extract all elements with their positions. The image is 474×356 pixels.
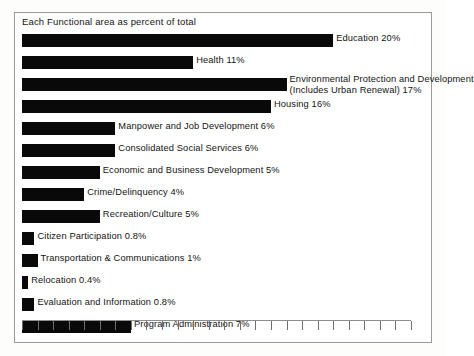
bar-label-transportation-and-communications: Transportation & Communications 1% [41, 253, 201, 264]
bar-row: Crime/Delinquency 4% [22, 187, 412, 209]
bar-label-line1: Evaluation and Information 0.8% [37, 297, 175, 308]
bar-label-line1: Economic and Business Development 5% [103, 165, 280, 176]
bar-housing [22, 100, 271, 113]
bar-citizen-participation [22, 232, 34, 245]
x-axis-tick [318, 321, 319, 330]
bar-row: Citizen Participation 0.8% [22, 231, 412, 253]
bar-label-line1: Crime/Delinquency 4% [87, 187, 184, 198]
bar-relocation [22, 276, 28, 289]
bar-label-relocation: Relocation 0.4% [31, 275, 101, 286]
bar-label-line1: Environmental Protection and Development [290, 74, 474, 85]
chart-caption: Each Functional area as percent of total [22, 16, 196, 27]
bar-label-line1: Consolidated Social Services 6% [118, 143, 258, 154]
bar-label-line1: Housing 16% [274, 99, 331, 110]
bar-label-economic-and-business-development: Economic and Business Development 5% [103, 165, 280, 176]
bar-label-line1: Citizen Participation 0.8% [37, 231, 146, 242]
bar-row: Manpower and Job Development 6% [22, 121, 412, 143]
bar-label-line1: Health 11% [196, 55, 245, 66]
x-axis-tick [209, 321, 210, 330]
bar-row: Consolidated Social Services 6% [22, 143, 412, 165]
bar-row: Economic and Business Development 5% [22, 165, 412, 187]
x-axis-tick [364, 321, 365, 330]
x-axis-tick [131, 321, 132, 330]
bar-recreation-culture [22, 210, 100, 223]
bar-label-recreation-culture: Recreation/Culture 5% [103, 209, 199, 220]
x-axis-tick [22, 321, 23, 330]
bar-transportation-and-communications [22, 254, 38, 267]
bar-label-line1: Manpower and Job Development 6% [118, 121, 274, 132]
bar-label-crime-delinquency: Crime/Delinquency 4% [87, 187, 184, 198]
x-axis-tick [271, 321, 272, 330]
bar-label-citizen-participation: Citizen Participation 0.8% [37, 231, 146, 242]
bar-label-health: Health 11% [196, 55, 245, 66]
x-axis-tick [69, 321, 70, 330]
x-axis-tick [411, 321, 412, 330]
x-axis-tick [38, 321, 39, 330]
bar-label-line2: (Includes Urban Renewal) 17% [290, 85, 474, 96]
bar-label-line1: Relocation 0.4% [31, 275, 101, 286]
bar-label-consolidated-social-services: Consolidated Social Services 6% [118, 143, 258, 154]
x-axis-tick [146, 321, 147, 330]
x-axis-tick [380, 321, 381, 330]
bar-row: Evaluation and Information 0.8% [22, 297, 412, 319]
bar-crime-delinquency [22, 188, 84, 201]
x-axis-tick [224, 321, 225, 330]
x-axis-tick [302, 321, 303, 330]
x-axis-tick [287, 321, 288, 330]
x-axis-tick [255, 321, 256, 330]
bar-economic-and-business-development [22, 166, 100, 179]
bar-environmental-protection-and-development [22, 78, 287, 91]
x-axis-tick [115, 321, 116, 330]
x-axis-tick [240, 321, 241, 330]
bar-label-line1: Transportation & Communications 1% [41, 253, 201, 264]
x-axis-tick [84, 321, 85, 330]
bar-label-line1: Recreation/Culture 5% [103, 209, 199, 220]
bar-row: Transportation & Communications 1% [22, 253, 412, 275]
x-axis-tick [395, 321, 396, 330]
bar-row: Education 20% [22, 33, 412, 55]
x-axis-tick [53, 321, 54, 330]
x-axis-tick [193, 321, 194, 330]
bar-row: Recreation/Culture 5% [22, 209, 412, 231]
x-axis-ticks [22, 321, 411, 330]
x-axis-tick [100, 321, 101, 330]
bar-label-evaluation-and-information: Evaluation and Information 0.8% [37, 297, 175, 308]
x-axis-tick [333, 321, 334, 330]
bar-health [22, 56, 193, 69]
bar-label-environmental-protection-and-development: Environmental Protection and Development… [290, 74, 474, 95]
x-axis-tick [349, 321, 350, 330]
bar-education [22, 34, 333, 47]
bar-consolidated-social-services [22, 144, 115, 157]
bar-evaluation-and-information [22, 298, 34, 311]
bar-chart-plot-area: Education 20%Health 11%Environmental Pro… [22, 33, 412, 309]
bar-row: Environmental Protection and Development… [22, 77, 412, 99]
bar-label-education: Education 20% [336, 33, 400, 44]
x-axis-tick [178, 321, 179, 330]
bar-label-line1: Education 20% [336, 33, 400, 44]
bar-row: Relocation 0.4% [22, 275, 412, 297]
x-axis-tick [162, 321, 163, 330]
bar-manpower-and-job-development [22, 122, 115, 135]
bar-label-housing: Housing 16% [274, 99, 331, 110]
bar-label-manpower-and-job-development: Manpower and Job Development 6% [118, 121, 274, 132]
bar-row: Housing 16% [22, 99, 412, 121]
